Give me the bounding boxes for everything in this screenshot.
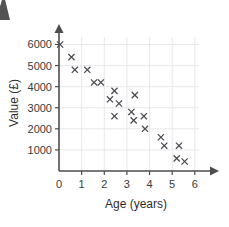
scatter-chart-figure: 1000200030004000500060000123456Age (year… [0, 0, 229, 227]
data-point-marker [72, 67, 78, 73]
data-point-marker [91, 79, 97, 85]
x-tick-label: 3 [124, 178, 130, 190]
axes-lines [55, 24, 220, 176]
data-point-marker [111, 113, 117, 119]
y-axis-title: Value (£) [7, 79, 21, 127]
chart-canvas: 1000200030004000500060000123456Age (year… [0, 0, 229, 227]
data-point-marker [84, 67, 90, 73]
data-points [57, 41, 188, 164]
data-point-marker [128, 109, 134, 115]
data-point-marker [107, 96, 113, 102]
data-point-marker [158, 134, 164, 140]
data-point-marker [68, 54, 74, 60]
data-point-marker [132, 92, 138, 98]
x-tick-label: 2 [101, 178, 107, 190]
y-tick-label: 6000 [28, 38, 52, 50]
y-tick-label: 1000 [28, 144, 52, 156]
data-point-marker [98, 79, 104, 85]
y-tick-label: 4000 [28, 81, 52, 93]
y-axis-ticks: 100020003000400050006000 [28, 38, 59, 155]
x-tick-label: 5 [169, 178, 175, 190]
x-tick-label: 1 [79, 178, 85, 190]
x-axis-arrowhead [210, 167, 219, 176]
data-point-marker [116, 100, 122, 106]
y-tick-label: 3000 [28, 102, 52, 114]
gridlines [59, 37, 199, 171]
data-point-marker [111, 88, 117, 94]
data-point-marker [174, 155, 180, 161]
data-point-marker [161, 143, 167, 149]
x-axis-title: Age (years) [105, 197, 167, 211]
x-axis-ticks: 0123456 [56, 171, 198, 190]
data-point-marker [141, 113, 147, 119]
data-point-marker [176, 143, 182, 149]
x-tick-label: 0 [56, 178, 62, 190]
x-tick-label: 4 [146, 178, 152, 190]
y-axis-arrowhead [55, 24, 64, 33]
data-point-marker [182, 158, 188, 164]
y-tick-label: 2000 [28, 123, 52, 135]
x-tick-label: 6 [192, 178, 198, 190]
data-point-marker [131, 117, 137, 123]
y-tick-label: 5000 [28, 60, 52, 72]
